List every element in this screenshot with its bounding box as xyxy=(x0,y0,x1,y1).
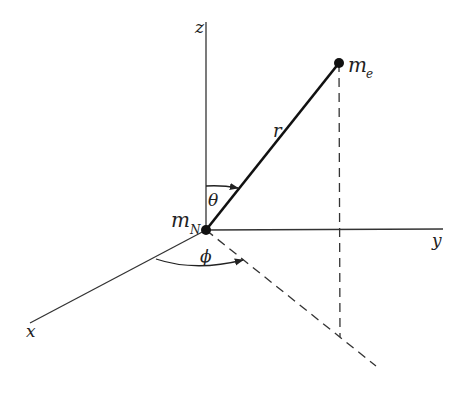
y-axis xyxy=(206,229,443,230)
nucleus-point xyxy=(201,225,211,235)
theta-label: θ xyxy=(208,190,218,210)
theta-arc xyxy=(206,186,238,188)
y-axis-label: y xyxy=(431,230,442,250)
x-axis-label: x xyxy=(26,321,36,341)
vertical-drop-line xyxy=(339,63,340,337)
radius-label: r xyxy=(273,120,283,141)
nucleus-label: m xyxy=(171,208,190,232)
x-axis xyxy=(30,230,206,323)
electron-subscript: e xyxy=(366,67,373,81)
radius-vector xyxy=(206,63,339,230)
phi-label: ϕ xyxy=(200,246,212,266)
electron-point xyxy=(334,58,344,68)
projection-line xyxy=(206,230,376,366)
spherical-coordinates-diagram: z y x r θ ϕ m e m N xyxy=(0,0,471,393)
electron-label: m xyxy=(348,53,367,77)
z-axis-label: z xyxy=(194,17,205,37)
nucleus-subscript: N xyxy=(189,223,201,237)
